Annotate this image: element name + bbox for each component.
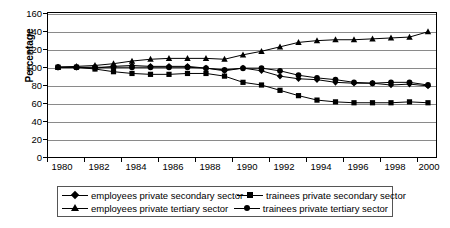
data-point [407, 99, 412, 104]
y-axis-title: Percentage [24, 1, 35, 111]
x-tick-mark [158, 158, 159, 162]
legend-item-trainees-private-secondary-sector: trainees private secondary sector [237, 190, 406, 201]
data-point [277, 88, 282, 93]
y-tick-label-40: 40 [8, 117, 42, 126]
data-point [240, 80, 245, 85]
x-tick-mark [84, 158, 85, 162]
plot-area [47, 12, 437, 158]
legend-row: employees private tertiary sector traine… [62, 202, 388, 215]
x-tick-label-1984: 1984 [116, 162, 156, 172]
data-point [370, 100, 375, 105]
data-point [333, 99, 338, 104]
data-point [148, 72, 153, 77]
data-point [425, 28, 431, 34]
x-tick-label-2000: 2000 [409, 162, 449, 172]
triangle-marker-icon [62, 203, 88, 214]
data-point [129, 71, 134, 76]
data-point [222, 74, 227, 79]
x-tick-label-1992: 1992 [264, 162, 304, 172]
data-point [203, 71, 208, 76]
legend-item-employees-private-secondary-sector: employees private secondary sector [62, 190, 237, 201]
legend-row: employees private secondary sector train… [62, 189, 388, 202]
data-point [277, 73, 283, 80]
series-plot [48, 13, 436, 157]
data-point [55, 64, 61, 70]
data-point [351, 100, 356, 105]
x-tick-mark [343, 158, 344, 162]
data-point [74, 64, 80, 70]
x-tick-label-1990: 1990 [227, 162, 267, 172]
data-point [240, 65, 246, 71]
circle-marker-icon [234, 203, 260, 214]
data-point [111, 64, 117, 70]
data-point [166, 72, 171, 77]
diamond-marker-icon [62, 190, 88, 201]
data-point [296, 93, 301, 98]
legend-item-trainees-private-tertiary-sector: trainees private tertiary sector [234, 203, 388, 214]
x-tick-mark [47, 158, 48, 162]
legend-item-employees-private-tertiary-sector: employees private tertiary sector [62, 203, 234, 214]
data-point [259, 65, 265, 71]
x-tick-mark [121, 158, 122, 162]
y-tick-label-20: 20 [8, 135, 42, 144]
x-tick-mark [269, 158, 270, 162]
data-point [259, 82, 264, 87]
legend-label: employees private tertiary sector [91, 204, 228, 214]
data-point [203, 65, 209, 71]
data-point [222, 67, 228, 73]
data-point [185, 71, 190, 76]
data-point [425, 100, 430, 105]
chart-figure: 160 140 120 100 80 60 40 20 0 Percentage… [0, 0, 450, 228]
data-point [314, 97, 319, 102]
data-point [314, 75, 320, 81]
chart-legend: employees private secondary sector train… [57, 186, 393, 217]
data-point [277, 68, 283, 74]
x-tick-label-1986: 1986 [153, 162, 193, 172]
data-point [370, 80, 376, 86]
data-point [166, 64, 172, 70]
x-tick-mark [232, 158, 233, 162]
data-point [388, 79, 394, 85]
y-tick-label-0: 0 [8, 153, 42, 162]
legend-label: trainees private secondary sector [266, 191, 406, 201]
legend-label: employees private secondary sector [91, 191, 243, 201]
data-point [351, 79, 357, 85]
data-point [129, 64, 135, 70]
data-point [92, 64, 98, 70]
data-point [185, 64, 191, 70]
data-point [333, 77, 339, 83]
x-tick-mark [195, 158, 196, 162]
x-tick-mark [306, 158, 307, 162]
x-tick-mark [380, 158, 381, 162]
series-triangle [55, 28, 431, 70]
data-point [425, 82, 431, 88]
x-tick-label-1988: 1988 [190, 162, 230, 172]
data-point [407, 79, 413, 85]
legend-label: trainees private tertiary sector [263, 204, 388, 214]
x-tick-label-1982: 1982 [79, 162, 119, 172]
square-marker-icon [237, 190, 263, 201]
data-point [148, 64, 154, 70]
x-tick-label-1996: 1996 [338, 162, 378, 172]
x-tick-label-1980: 1980 [42, 162, 82, 172]
data-point [296, 72, 302, 78]
data-point [388, 100, 393, 105]
x-tick-label-1994: 1994 [301, 162, 341, 172]
x-tick-mark [417, 158, 418, 162]
